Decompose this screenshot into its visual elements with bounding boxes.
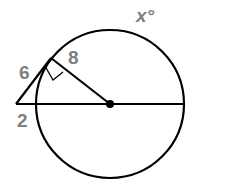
diagram-canvas: x° 6 8 2 <box>0 0 237 188</box>
segment-label-2: 2 <box>17 110 28 131</box>
right-angle-marker <box>45 66 63 80</box>
geometry-diagram: x° 6 8 2 <box>0 0 237 188</box>
segment-label-6: 6 <box>19 62 30 83</box>
radius-segment <box>51 58 110 104</box>
center-point <box>106 100 114 108</box>
segment-label-8: 8 <box>68 47 79 68</box>
arc-label-x: x° <box>135 5 155 26</box>
